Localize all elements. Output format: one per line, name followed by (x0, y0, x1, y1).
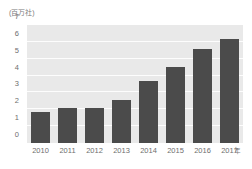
gridline (27, 41, 243, 42)
y-axis-tick-label: 5 (15, 47, 19, 55)
bar (139, 81, 158, 143)
y-axis-tick-label: 2 (15, 97, 19, 105)
bar (58, 108, 77, 143)
x-axis-tick-label: 2016 (189, 146, 216, 155)
y-axis-tick-label: 6 (15, 30, 19, 38)
bar-chart: (百万社) 01234567 2010201120122013201420152… (0, 0, 252, 169)
bar (166, 67, 185, 143)
y-axis-tick-label: 1 (15, 114, 19, 122)
bar (193, 49, 212, 143)
bar (85, 108, 104, 143)
x-axis: 20102011201220132014201520162017年 (27, 146, 243, 160)
plot-area (27, 25, 243, 143)
y-axis-tick-label: 4 (15, 64, 19, 72)
y-axis-tick-label: 3 (15, 80, 19, 88)
y-axis: 01234567 (0, 25, 24, 143)
y-axis-unit-label: (百万社) (9, 8, 35, 18)
y-axis-tick-label: 0 (15, 131, 19, 139)
x-axis-label: 年 (234, 146, 241, 155)
x-axis-tick-label: 2011 (54, 146, 81, 155)
y-axis-tick-label: 7 (15, 13, 19, 21)
x-axis-tick-label: 2012 (81, 146, 108, 155)
bar (31, 112, 50, 143)
x-axis-tick-label: 2014 (135, 146, 162, 155)
bar (220, 39, 239, 143)
x-axis-tick-label: 2010 (27, 146, 54, 155)
x-axis-tick-label: 2013 (108, 146, 135, 155)
x-axis-tick-label: 2015 (162, 146, 189, 155)
bar (112, 100, 131, 143)
